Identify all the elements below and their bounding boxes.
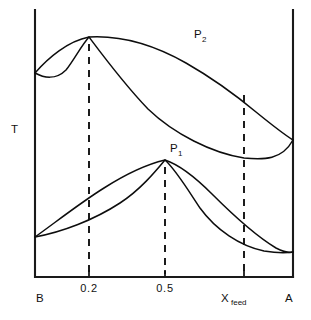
y-axis-label: T: [11, 123, 18, 135]
p1-curve-label-main: P: [170, 142, 178, 154]
p1-bubble-curve: [35, 160, 293, 253]
label-group: T B A 0.2 0.5 X feed P 2 P 1: [11, 28, 293, 307]
x-feed-label-subscript: feed: [231, 298, 247, 307]
p1-curve-label-subscript: 1: [178, 149, 183, 158]
tick-label-0-5: 0.5: [156, 282, 174, 294]
p2-curve-label-subscript: 2: [202, 35, 207, 44]
axis-group: [35, 10, 293, 277]
p2-bubble-curve: [35, 37, 293, 159]
p2-curve-label-main: P: [194, 28, 202, 40]
isobar-p2-curves: [35, 37, 293, 159]
x-feed-label-main: X: [221, 292, 229, 304]
phase-diagram-svg: T B A 0.2 0.5 X feed P 2 P 1: [0, 0, 311, 320]
tick-label-0-2: 0.2: [80, 282, 98, 294]
p1-dew-curve: [35, 160, 293, 252]
left-and-bottom-axis: [35, 10, 293, 277]
p2-dew-curve: [35, 37, 293, 140]
phase-diagram-figure: T B A 0.2 0.5 X feed P 2 P 1: [0, 0, 311, 320]
left-endpoint-label: B: [36, 292, 44, 304]
right-endpoint-label: A: [285, 292, 293, 304]
dashed-guide-lines: [89, 44, 244, 274]
isobar-p1-curves: [35, 160, 293, 253]
